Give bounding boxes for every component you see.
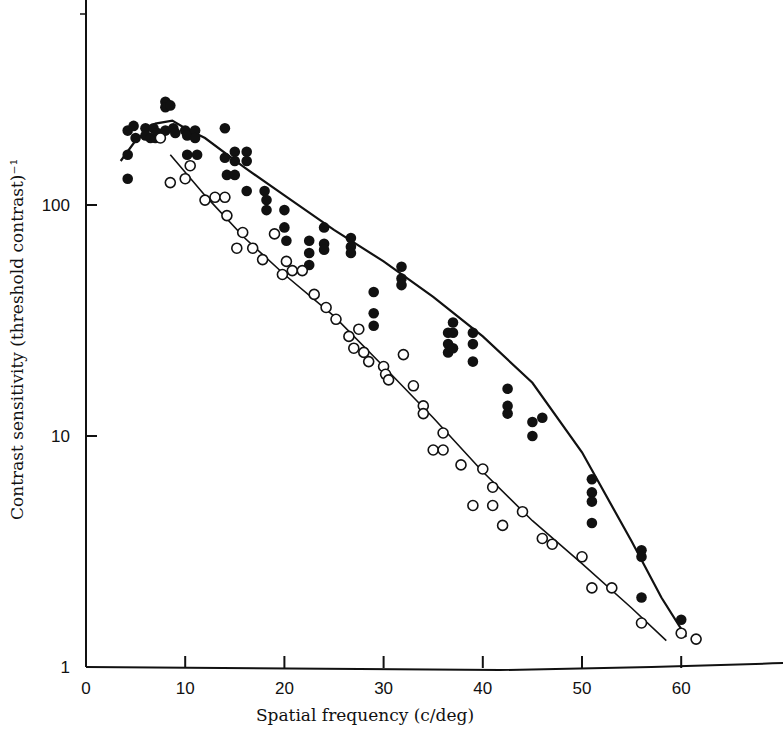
open-data-point <box>270 229 280 239</box>
open-data-point <box>297 266 307 276</box>
filled-data-point <box>128 121 139 132</box>
filled-data-point <box>368 287 379 298</box>
open-data-point <box>180 174 190 184</box>
filled-data-point <box>230 156 241 167</box>
open-data-point <box>277 270 287 280</box>
open-data-point <box>438 428 448 438</box>
filled-data-point <box>448 317 459 328</box>
x-tick-label: 40 <box>473 679 492 698</box>
open-data-point <box>155 133 165 143</box>
filled-data-point <box>587 496 598 507</box>
filled-data-point <box>220 123 231 134</box>
filled-data-point <box>368 321 379 332</box>
open-data-point <box>287 266 297 276</box>
axes <box>86 0 783 670</box>
y-tick-label: 100 <box>42 196 70 215</box>
filled-data-point <box>527 417 538 428</box>
open-data-point <box>518 507 528 517</box>
open-data-point <box>248 243 258 253</box>
filled-data-point <box>130 133 141 144</box>
open-data-point <box>498 520 508 530</box>
filled-data-point <box>502 384 513 395</box>
filled-data-point <box>190 133 201 144</box>
filled-data-point <box>346 248 357 259</box>
filled-data-point <box>636 552 647 563</box>
open-data-point <box>384 375 394 385</box>
y-axis-label: Contrast sensitivity (threshold contrast… <box>7 190 27 520</box>
filled-data-point <box>319 245 330 256</box>
open-data-point <box>428 445 438 455</box>
open-data-point <box>408 381 418 391</box>
contrast-sensitivity-chart: 110100 0102030405060 <box>0 0 783 740</box>
open-data-point <box>220 192 230 202</box>
y-tick-label: 10 <box>51 427 70 446</box>
open-data-point <box>418 409 428 419</box>
filled-data-point <box>636 592 647 603</box>
filled-data-point <box>220 153 231 164</box>
filled-data-point <box>676 615 687 626</box>
filled-data-point <box>587 518 598 529</box>
filled-data-point <box>182 150 193 161</box>
filled-data-point <box>261 195 272 206</box>
y-ticks: 110100 <box>42 14 97 677</box>
open-data-point <box>364 357 374 367</box>
open-data-point <box>456 460 466 470</box>
open-data-point <box>547 539 557 549</box>
data-points <box>122 96 701 644</box>
filled-data-point <box>230 147 241 158</box>
open-data-point <box>438 445 448 455</box>
filled-data-point <box>468 327 479 338</box>
filled-data-point <box>122 173 133 184</box>
filled-data-point <box>122 150 133 161</box>
filled-data-point <box>304 248 315 259</box>
open-data-point <box>691 634 701 644</box>
open-data-point <box>200 195 210 205</box>
open-data-point <box>577 552 587 562</box>
x-tick-label: 10 <box>176 679 195 698</box>
x-ticks: 0102030405060 <box>81 656 690 698</box>
open-data-point <box>321 303 331 313</box>
open-data-point <box>222 211 232 221</box>
filled-data-point <box>319 222 330 233</box>
filled-data-point <box>396 262 407 273</box>
filled-data-point <box>368 308 379 319</box>
filled-data-point <box>279 205 290 216</box>
filled-data-point <box>261 205 272 216</box>
open-data-point <box>185 161 195 171</box>
open-data-point <box>238 228 248 238</box>
open-data-point <box>281 256 291 266</box>
filled-data-point <box>468 356 479 367</box>
open-data-point <box>354 324 364 334</box>
x-tick-label: 60 <box>672 679 691 698</box>
filled-data-point <box>241 147 252 158</box>
filled-data-point <box>304 236 315 247</box>
filled-data-point <box>281 236 292 247</box>
filled-data-point <box>537 412 548 423</box>
open-data-point <box>359 347 369 357</box>
open-data-point <box>210 192 220 202</box>
open-data-point <box>165 178 175 188</box>
filled-data-point <box>279 222 290 233</box>
open-data-point <box>478 464 488 474</box>
filled-data-point <box>448 327 459 338</box>
filled-data-point <box>448 343 459 354</box>
open-data-point <box>398 350 408 360</box>
filled-data-point <box>468 339 479 350</box>
filled-data-point <box>587 487 598 498</box>
filled-data-point <box>527 431 538 442</box>
filled-data-point <box>396 280 407 291</box>
filled-data-point <box>170 128 181 139</box>
open-data-point <box>232 243 242 253</box>
open-data-point <box>344 331 354 341</box>
open-data-point <box>637 618 647 628</box>
x-tick-label: 0 <box>81 679 90 698</box>
open-data-point <box>488 482 498 492</box>
open-data-point <box>468 501 478 511</box>
open-data-point <box>537 534 547 544</box>
open-data-point <box>676 628 686 638</box>
x-axis-line <box>86 663 783 670</box>
x-tick-label: 20 <box>275 679 294 698</box>
open-data-point <box>488 501 498 511</box>
filled-data-point <box>230 170 241 181</box>
x-tick-label: 30 <box>374 679 393 698</box>
